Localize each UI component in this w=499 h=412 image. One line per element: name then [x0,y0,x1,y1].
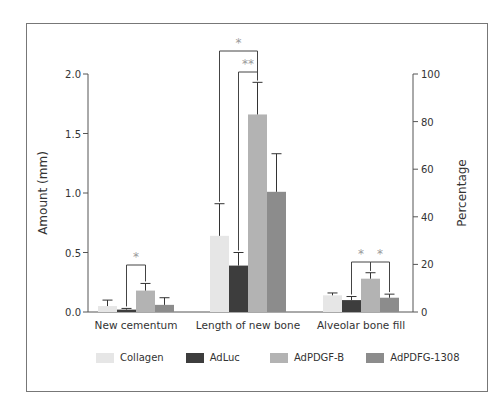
y-tick-label-left: 1.5 [65,129,81,140]
y-tick-label-right: 60 [421,164,434,175]
y-tick-label-right: 20 [421,259,434,270]
significance-marker: * [236,36,242,50]
bar [229,266,248,312]
legend-item-adpdfg-1308: AdPDFG-1308 [366,352,459,363]
legend-item-adluc: AdLuc [186,352,240,363]
legend-label: Collagen [120,352,164,363]
bars [98,82,399,312]
bar [136,291,155,312]
y-tick-label-right: 80 [421,117,434,128]
x-tick-label: Length of new bone [196,319,300,331]
legend-label: AdPDFG-1308 [390,352,459,363]
bar-chart: 0.00.51.01.52.0020406080100New cementumL… [0,0,499,412]
y-tick-label-right: 0 [421,307,427,318]
legend-label: AdPDGF-B [294,352,344,363]
y-axis-label-left: Amount (mm) [36,151,50,235]
bar [342,300,361,312]
legend-item-adpdgf-b: AdPDGF-B [270,352,344,363]
legend-label: AdLuc [210,352,240,363]
significance-marker: * [133,250,139,264]
x-tick-label: Alveolar bone fill [317,319,405,331]
bar [98,306,117,312]
bar [155,305,174,312]
bar [267,192,286,312]
y-tick-label-right: 100 [421,69,440,80]
significance-marker: * [358,247,364,261]
bar [361,279,380,312]
y-axis-label-right: Percentage [455,159,469,227]
legend-swatch [96,353,114,363]
bar [323,295,342,312]
y-tick-label-right: 40 [421,212,434,223]
y-tick-label-left: 2.0 [65,69,81,80]
x-tick-label: New cementum [95,319,178,331]
significance-marker: ** [242,57,254,71]
bar [117,310,136,312]
y-tick-label-left: 1.0 [65,188,81,199]
y-tick-label-left: 0.5 [65,248,81,259]
legend-item-collagen: Collagen [96,352,164,363]
significance-marker: * [377,247,383,261]
bar [248,114,267,312]
legend-swatch [366,353,384,363]
bar [380,298,399,312]
legend-swatch [270,353,288,363]
y-tick-label-left: 0.0 [65,307,81,318]
legend-swatch [186,353,204,363]
bar [210,236,229,312]
legend: Collagen AdLuc AdPDGF-B AdPDFG-1308 [96,352,482,363]
